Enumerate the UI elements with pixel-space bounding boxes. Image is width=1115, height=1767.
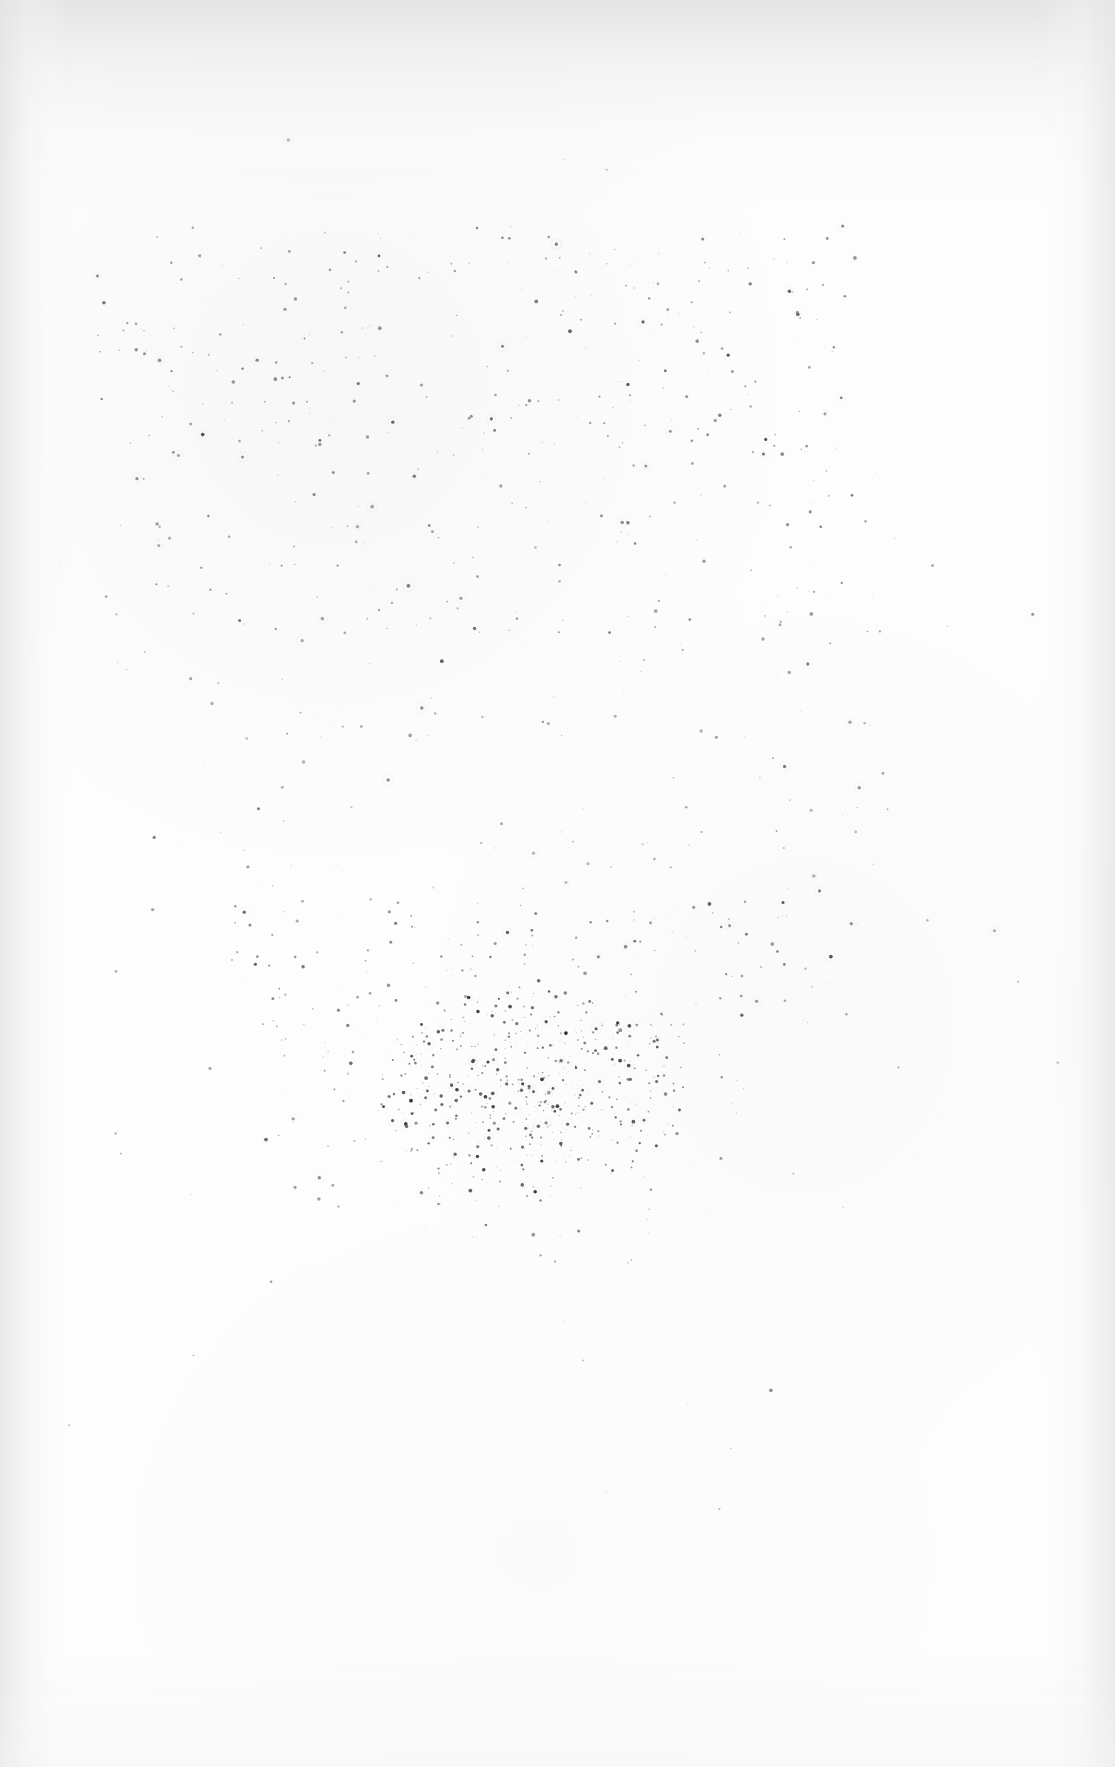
paper-background <box>0 0 1115 1767</box>
scanned-page <box>0 0 1115 1767</box>
